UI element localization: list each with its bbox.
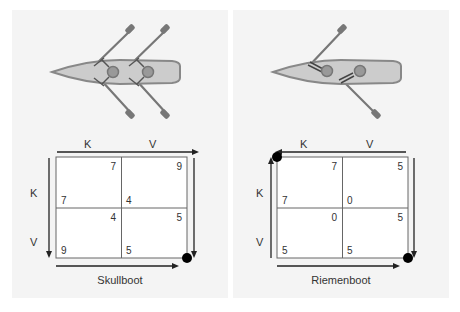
- cell-vk-top-right: 4: [110, 212, 116, 223]
- equilibrium-dot-top-left-icon: [272, 152, 282, 162]
- cell-vv-bottom-left: 5: [126, 245, 132, 256]
- caption-skullboot: Skullboot: [97, 274, 142, 286]
- cell-vk-top-right: 0: [331, 212, 337, 223]
- cell-kv-top-right: 5: [397, 161, 403, 172]
- equilibrium-dot-icon: [182, 253, 192, 263]
- cell-vk-bottom-left: 9: [61, 245, 67, 256]
- cell-kv-top-right: 9: [176, 161, 182, 172]
- cell-vv-top-right: 5: [176, 212, 182, 223]
- bottom-arrow-right-icon: [277, 263, 400, 269]
- cell-kv-bottom-left: 0: [347, 195, 353, 206]
- left-arrow-down-icon: [46, 158, 52, 258]
- sculling-boat-icon: [52, 23, 180, 119]
- riemenboot-diagram: K V K V 7 7 5 0 0 5 5 5: [233, 10, 449, 298]
- cell-vv-top-right: 5: [397, 212, 403, 223]
- caption-riemenboot: Riemenboot: [311, 274, 370, 286]
- payoff-matrix: [277, 157, 408, 258]
- cell-kv-bottom-left: 4: [126, 195, 132, 206]
- cell-kk-top-right: 7: [110, 161, 116, 172]
- side-label-k: K: [256, 187, 264, 199]
- top-label-v: V: [149, 138, 157, 150]
- cell-kk-bottom-left: 7: [61, 195, 67, 206]
- left-arrow-up-icon: [268, 157, 274, 258]
- cell-vk-bottom-left: 5: [282, 245, 288, 256]
- cell-kk-top-right: 7: [331, 161, 337, 172]
- riemenboot-panel: K V K V 7 7 5 0 0 5 5 5: [233, 10, 449, 298]
- skullboot-diagram: K V K V 7 7 9 4 4 9 5 5: [12, 10, 228, 298]
- top-label-k: K: [300, 138, 308, 150]
- sweep-rowing-boat-icon: [273, 23, 401, 119]
- top-label-k: K: [84, 138, 92, 150]
- right-arrow-down-icon: [411, 158, 417, 258]
- right-arrow-down-icon: [191, 158, 197, 258]
- top-arrow-right-icon: [57, 149, 199, 155]
- payoff-matrix: [56, 157, 187, 258]
- cell-kk-bottom-left: 7: [282, 195, 288, 206]
- side-label-k: K: [30, 187, 38, 199]
- cell-vv-bottom-left: 5: [347, 245, 353, 256]
- equilibrium-dot-bottom-right-icon: [403, 253, 413, 263]
- top-label-v: V: [366, 138, 374, 150]
- skullboot-panel: K V K V 7 7 9 4 4 9 5 5: [12, 10, 228, 298]
- top-arrow-left-icon: [275, 149, 406, 155]
- side-label-v: V: [30, 236, 38, 248]
- side-label-v: V: [256, 236, 264, 248]
- bottom-arrow-right-icon: [56, 263, 179, 269]
